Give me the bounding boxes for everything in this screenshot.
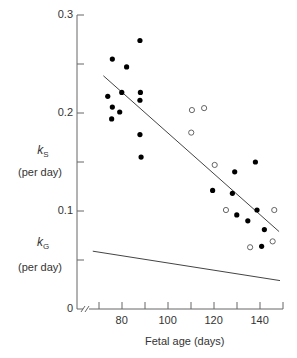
y-tick-label: 0.3 (58, 8, 73, 20)
y-tick-label: 0.1 (58, 204, 73, 216)
open-data-point (248, 245, 253, 250)
filled-data-point (119, 90, 124, 95)
filled-data-point (110, 57, 115, 62)
x-tick-label: 120 (204, 314, 222, 326)
kg-unit-label: (per day) (18, 261, 62, 273)
filled-data-point (109, 116, 114, 121)
open-data-point (189, 107, 194, 112)
axes (77, 15, 283, 312)
y-tick-label: 0.2 (58, 106, 73, 118)
ks-axis-label: kS (37, 143, 48, 159)
y-tick-label: 0 (67, 302, 73, 314)
filled-data-point (110, 105, 115, 110)
x-tick-label: 100 (158, 314, 176, 326)
filled-data-point (105, 94, 110, 99)
ks-regression-line (103, 76, 279, 232)
kg-axis-label: kG (37, 235, 49, 251)
filled-data-point (210, 188, 215, 193)
filled-data-point (138, 155, 143, 160)
filled-data-point (259, 244, 264, 249)
filled-data-point (137, 132, 142, 137)
chart-plot (0, 0, 297, 358)
filled-data-point (254, 207, 259, 212)
axis-break-mark (85, 306, 89, 312)
filled-data-point (234, 212, 239, 217)
x-tick-label: 140 (250, 314, 268, 326)
open-data-point (202, 106, 207, 111)
x-axis-label: Fetal age (days) (145, 335, 224, 347)
filled-data-point (245, 218, 250, 223)
filled-data-point (138, 90, 143, 95)
open-data-point (223, 207, 228, 212)
filled-data-point (253, 159, 258, 164)
data-points (105, 38, 277, 250)
open-data-point (212, 162, 217, 167)
filled-data-point (232, 169, 237, 174)
filled-data-point (124, 64, 129, 69)
ks-subscript: S (43, 150, 48, 159)
trend-lines (93, 76, 280, 281)
filled-data-point (137, 98, 142, 103)
open-data-point (189, 130, 194, 135)
filled-data-point (117, 109, 122, 114)
ks-unit-label: (per day) (18, 166, 62, 178)
kg-subscript: G (43, 242, 49, 251)
filled-data-point (137, 38, 142, 43)
kg-line (93, 251, 280, 280)
open-data-point (272, 207, 277, 212)
open-data-point (270, 239, 275, 244)
filled-data-point (230, 191, 235, 196)
x-tick-label: 80 (116, 314, 128, 326)
filled-data-point (262, 227, 267, 232)
